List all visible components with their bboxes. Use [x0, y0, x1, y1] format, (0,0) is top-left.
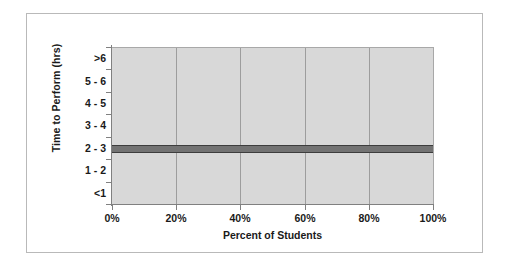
y-axis-title: Time to Perform (hrs) — [50, 23, 62, 173]
y-tick-label: <1 — [65, 182, 111, 204]
y-tick-label: 3 - 4 — [65, 114, 111, 136]
y-tickmark — [106, 47, 111, 48]
plot-area — [112, 47, 434, 205]
x-tickmark — [176, 205, 177, 210]
x-tick-label: 40% — [229, 212, 250, 224]
x-tick-label: 80% — [358, 212, 379, 224]
x-tickmark — [305, 205, 306, 210]
x-axis-tick-labels: 0%20%40%60%80%100% — [112, 212, 433, 228]
x-axis-title: Percent of Students — [112, 229, 433, 241]
y-tick-label: 1 - 2 — [65, 159, 111, 181]
gridline-vertical — [176, 48, 177, 205]
gridline-vertical — [305, 48, 306, 205]
y-tickmark — [106, 69, 111, 70]
y-tick-label: 2 - 3 — [65, 137, 111, 159]
y-tick-label: >6 — [65, 47, 111, 69]
x-tick-label: 20% — [165, 212, 186, 224]
x-axis-line — [111, 204, 434, 205]
x-tick-label: 100% — [420, 212, 447, 224]
x-tickmark — [433, 205, 434, 210]
x-tick-label: 0% — [104, 212, 119, 224]
x-tickmark — [240, 205, 241, 210]
y-tickmark — [106, 159, 111, 160]
gridline-vertical — [433, 48, 434, 205]
x-tick-label: 60% — [294, 212, 315, 224]
y-tickmark — [106, 137, 111, 138]
bar — [112, 145, 433, 153]
gridline-vertical — [240, 48, 241, 205]
y-tickmark — [106, 92, 111, 93]
y-tick-label: 4 - 5 — [65, 92, 111, 114]
y-axis-tick-labels: >6 5 - 6 4 - 5 3 - 4 2 - 3 1 - 2 <1 — [65, 47, 111, 204]
chart-figure: Time to Perform (hrs) >6 5 - 6 4 - 5 3 -… — [26, 13, 483, 253]
x-tickmark — [369, 205, 370, 210]
x-tickmark — [112, 205, 113, 210]
gridline-vertical — [369, 48, 370, 205]
y-tickmark — [106, 182, 111, 183]
y-tick-label: 5 - 6 — [65, 69, 111, 91]
y-tickmark — [106, 114, 111, 115]
